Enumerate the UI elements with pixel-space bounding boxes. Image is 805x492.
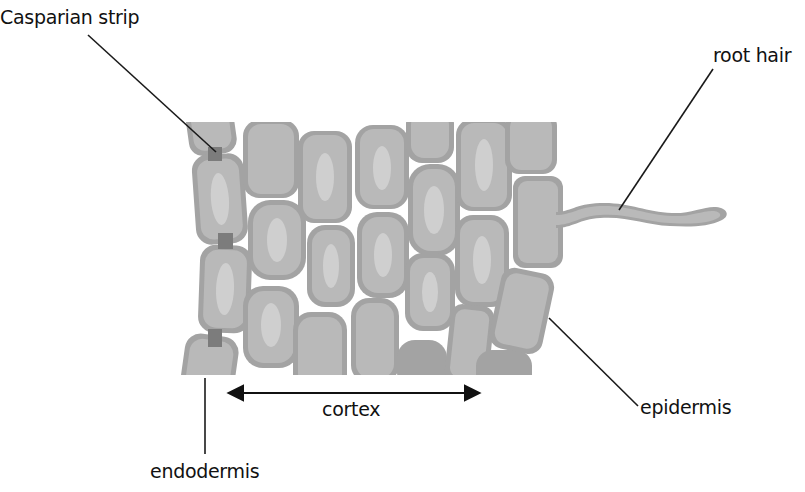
cortex-cells xyxy=(243,108,532,392)
root-hair-cell xyxy=(513,176,727,268)
casparian-strip-leader xyxy=(88,35,216,152)
casparian-strip-3 xyxy=(208,329,222,347)
epidermis-leader xyxy=(549,318,638,406)
casparian-strip-1 xyxy=(208,147,222,161)
root-tissue-diagram xyxy=(0,0,805,492)
label-cortex: cortex xyxy=(322,398,380,420)
endodermis-cells xyxy=(177,97,252,409)
label-root-hair: root hair xyxy=(713,44,791,66)
label-casparian-strip: Casparian strip xyxy=(0,6,139,28)
root-hair-leader xyxy=(619,69,713,210)
label-epidermis: epidermis xyxy=(640,396,731,418)
tissue-cells xyxy=(177,97,557,409)
casparian-strip-2 xyxy=(218,233,233,249)
label-endodermis: endodermis xyxy=(150,460,259,482)
